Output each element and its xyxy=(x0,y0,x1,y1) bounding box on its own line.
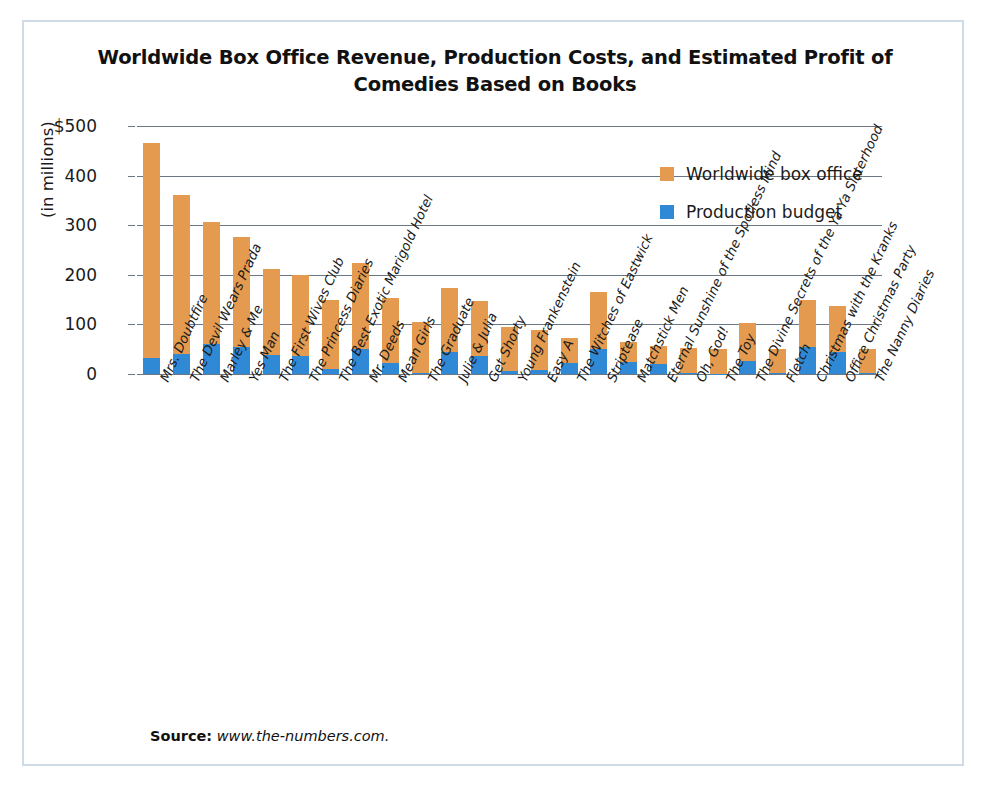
legend-item[interactable]: Worldwide box office xyxy=(660,158,940,190)
bar-group[interactable] xyxy=(143,143,160,374)
chart-title: Worldwide Box Office Revenue, Production… xyxy=(64,44,926,98)
legend: Worldwide box officeProduction budget xyxy=(660,158,940,234)
bar-segment-worldwide-box-office xyxy=(143,143,160,358)
legend-label: Production budget xyxy=(686,202,842,222)
source-label: Source: xyxy=(150,728,212,744)
y-tick-mark-400 xyxy=(128,176,135,177)
source-note: Source: www.the-numbers.com. xyxy=(150,728,389,744)
figure-frame: Worldwide Box Office Revenue, Production… xyxy=(22,20,964,766)
y-tick-label-200: 200 xyxy=(27,265,97,285)
y-tick-mark-500 xyxy=(128,126,135,127)
orange-square-swatch xyxy=(660,167,674,181)
legend-item[interactable]: Production budget xyxy=(660,196,940,228)
x-axis-tick-labels: Mrs. DoubtfireThe Devil Wears PradaMarle… xyxy=(137,378,882,708)
y-tick-mark-300 xyxy=(128,225,135,226)
y-tick-mark-200 xyxy=(128,275,135,276)
y-tick-label-400: 400 xyxy=(27,166,97,186)
bar-segment-production-budget xyxy=(143,358,160,374)
y-tick-label-500: $500 xyxy=(27,116,97,136)
legend-label: Worldwide box office xyxy=(686,164,863,184)
y-tick-label-100: 100 xyxy=(27,314,97,334)
source-url: www.the-numbers.com. xyxy=(217,728,390,744)
y-tick-label-300: 300 xyxy=(27,215,97,235)
blue-square-swatch xyxy=(660,205,674,219)
y-tick-mark-0 xyxy=(128,374,135,375)
y-tick-mark-100 xyxy=(128,324,135,325)
y-tick-label-0: 0 xyxy=(27,364,97,384)
